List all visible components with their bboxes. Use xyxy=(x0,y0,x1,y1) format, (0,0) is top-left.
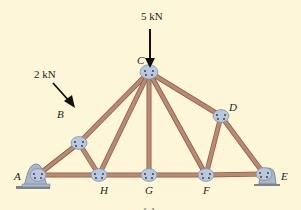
gusset-f xyxy=(198,169,214,182)
load-label-5kn: 5 kN xyxy=(141,10,163,22)
gusset-h xyxy=(91,169,107,182)
gusset-a xyxy=(30,169,46,182)
joint-label-h: H xyxy=(99,184,109,196)
joint-label-d: D xyxy=(228,101,237,113)
joint-label-e: E xyxy=(280,170,288,182)
truss-members xyxy=(38,72,264,175)
gusset-c xyxy=(140,65,158,79)
joint-label-g: G xyxy=(145,184,153,196)
truss-diagram: 5 kN 2 kN C B D A E H G F (a) xyxy=(0,0,301,210)
joint-label-f: F xyxy=(202,184,210,196)
figure-caption: (a) xyxy=(143,205,156,210)
truss-svg: 5 kN 2 kN C B D A E H G F (a) xyxy=(0,0,301,210)
joint-label-c: C xyxy=(137,54,145,66)
gusset-g xyxy=(141,169,157,182)
gusset-b xyxy=(71,137,87,150)
gusset-e xyxy=(256,168,272,181)
load-arrow-5kn xyxy=(145,29,155,68)
load-arrow-2kn xyxy=(53,83,75,108)
gusset-d xyxy=(213,110,229,123)
joint-label-b: B xyxy=(57,108,64,120)
load-label-2kn: 2 kN xyxy=(34,68,56,80)
joint-label-a: A xyxy=(13,170,21,182)
